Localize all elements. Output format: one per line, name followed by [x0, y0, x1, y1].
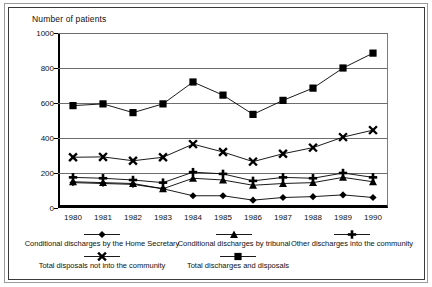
- x-tick-label: 1989: [334, 213, 352, 222]
- x-tick-label: 1982: [124, 213, 142, 222]
- data-point-square: [99, 100, 106, 107]
- x-tick-label: 1983: [154, 213, 172, 222]
- data-point-square: [219, 92, 226, 99]
- x-axis-ticks: 1980198119821983198419851986198719881989…: [58, 211, 388, 227]
- data-point-diamond: [309, 193, 316, 200]
- data-point-square: [159, 100, 166, 107]
- legend-label: Conditional discharges by the Home Secre…: [18, 239, 186, 248]
- series-cross-x: [69, 126, 377, 165]
- data-point-cross-x: [249, 158, 257, 166]
- data-point-diamond: [279, 194, 286, 201]
- data-point-diamond: [339, 191, 346, 198]
- series-line: [73, 130, 373, 162]
- data-point-square: [189, 78, 196, 85]
- legend-item[interactable]: Conditional discharges by tribunal: [164, 228, 304, 248]
- data-point-diamond: [369, 194, 376, 201]
- y-axis-ticks: 02004006008001000: [0, 33, 54, 208]
- data-point-cross-x: [189, 140, 197, 148]
- data-point-square: [309, 85, 316, 92]
- legend-label: Total disposals not into the community: [24, 261, 180, 270]
- data-point-square: [339, 64, 346, 71]
- legend-marker-diamond-icon: [18, 228, 186, 239]
- x-tick-label: 1981: [94, 213, 112, 222]
- data-point-plus: [348, 230, 356, 238]
- legend-item[interactable]: Conditional discharges by the Home Secre…: [18, 228, 186, 248]
- x-tick-label: 1984: [184, 213, 202, 222]
- x-tick-label: 1987: [274, 213, 292, 222]
- y-tick-label: 800: [41, 64, 54, 73]
- chart-title: Number of patients: [32, 14, 107, 24]
- data-point-cross-x: [219, 148, 227, 156]
- x-tick-label: 1986: [244, 213, 262, 222]
- legend-label: Total discharges and disposals: [168, 261, 308, 270]
- data-point-cross-x: [369, 126, 377, 134]
- data-point-diamond: [98, 230, 105, 237]
- data-point-triangle: [189, 174, 197, 181]
- series-line: [73, 53, 373, 114]
- y-tick-label: 200: [41, 169, 54, 178]
- legend-label: Conditional discharges by tribunal: [164, 239, 304, 248]
- chart-figure: Number of patients 02004006008001000 198…: [0, 0, 432, 287]
- x-tick-label: 1988: [304, 213, 322, 222]
- legend-marker-square-icon: [168, 250, 308, 261]
- legend-item[interactable]: Total disposals not into the community: [24, 250, 180, 270]
- data-point-square: [369, 50, 376, 57]
- data-point-cross-x: [279, 150, 287, 158]
- y-tick-mark: [54, 208, 58, 209]
- legend-marker-triangle-icon: [164, 228, 304, 239]
- x-tick-label: 1990: [364, 213, 382, 222]
- series-layer: [58, 33, 388, 208]
- data-point-diamond: [189, 192, 196, 199]
- y-tick-label: 400: [41, 134, 54, 143]
- data-point-cross-x: [309, 144, 317, 152]
- y-tick-label: 600: [41, 99, 54, 108]
- legend-label: Other discharges into the community: [286, 239, 418, 248]
- chart-legend: Conditional discharges by the Home Secre…: [18, 228, 416, 278]
- data-point-triangle: [339, 173, 347, 180]
- data-point-square: [234, 252, 241, 259]
- data-point-diamond: [219, 192, 226, 199]
- data-point-cross-x: [339, 133, 347, 141]
- series-triangle: [69, 173, 377, 192]
- data-point-diamond: [249, 197, 256, 204]
- data-point-square: [129, 109, 136, 116]
- data-point-square: [249, 111, 256, 118]
- plot-area: [58, 33, 388, 208]
- x-tick-label: 1985: [214, 213, 232, 222]
- data-point-square: [69, 102, 76, 109]
- series-square: [69, 50, 376, 118]
- y-tick-label: 1000: [36, 29, 54, 38]
- legend-item[interactable]: Total discharges and disposals: [168, 250, 308, 270]
- legend-marker-plus-icon: [286, 228, 418, 239]
- legend-item[interactable]: Other discharges into the community: [286, 228, 418, 248]
- data-point-square: [279, 97, 286, 104]
- x-tick-label: 1980: [64, 213, 82, 222]
- legend-marker-cross-x-icon: [24, 250, 180, 261]
